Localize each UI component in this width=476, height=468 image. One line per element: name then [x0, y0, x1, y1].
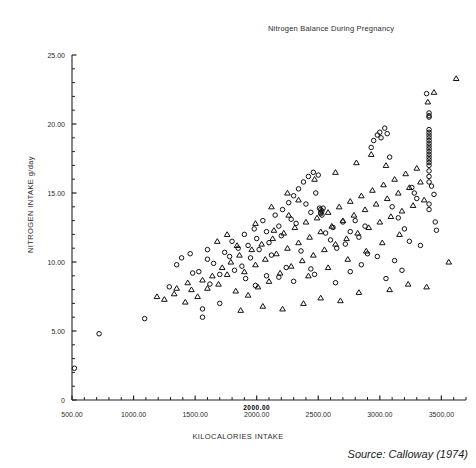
data-point-circle: [291, 194, 296, 199]
data-point-triangle: [318, 295, 324, 300]
y-tick-label: 10.00: [47, 259, 65, 266]
data-point-triangle: [195, 294, 201, 299]
data-point-circle: [328, 238, 333, 243]
tick-labels-group: 05.0010.0015.0020.0025.00500.001000.0015…: [47, 52, 454, 418]
data-point-triangle: [296, 197, 302, 202]
data-point-triangle: [381, 182, 387, 187]
data-point-circle: [412, 191, 417, 196]
data-point-triangle: [281, 230, 287, 235]
data-point-triangle: [306, 273, 312, 278]
data-point-triangle: [253, 221, 259, 226]
data-point-circle: [299, 249, 304, 254]
scatter-plot-canvas[interactable]: 05.0010.0015.0020.0025.00500.001000.0015…: [0, 0, 476, 468]
data-point-triangle: [266, 279, 272, 284]
data-point-circle: [261, 218, 266, 223]
data-point-circle: [200, 307, 205, 312]
data-point-circle: [375, 254, 380, 259]
data-point-triangle: [453, 76, 459, 81]
data-point-triangle: [410, 203, 416, 208]
data-point-circle: [296, 187, 301, 192]
data-point-triangle: [189, 287, 195, 292]
data-point-triangle: [388, 214, 394, 219]
y-tick-label: 0: [61, 397, 65, 404]
source-note: Source: Calloway (1974): [348, 448, 468, 460]
data-point-circle: [385, 131, 390, 136]
data-point-triangle: [399, 208, 405, 213]
data-point-triangle: [269, 204, 275, 209]
data-point-triangle: [418, 179, 424, 184]
data-point-circle: [264, 229, 269, 234]
series-circle-series: [72, 91, 438, 370]
data-point-triangle: [333, 241, 339, 246]
data-point-triangle: [238, 308, 244, 313]
data-point-triangle: [351, 212, 357, 217]
data-point-circle: [242, 232, 247, 237]
data-point-triangle: [356, 290, 362, 295]
data-point-circle: [384, 276, 389, 281]
data-point-triangle: [303, 219, 309, 224]
data-point-triangle: [174, 286, 180, 291]
data-point-triangle: [387, 287, 393, 292]
data-point-circle: [427, 174, 432, 179]
data-point-circle: [427, 207, 432, 212]
data-point-triangle: [233, 288, 239, 293]
data-point-circle: [429, 184, 434, 189]
data-point-circle: [286, 200, 291, 205]
data-point-triangle: [214, 239, 220, 244]
data-point-triangle: [262, 257, 268, 262]
data-point-circle: [289, 217, 294, 222]
data-point-triangle: [219, 265, 225, 270]
data-point-triangle: [228, 259, 234, 264]
data-point-triangle: [370, 188, 376, 193]
ticks-group: [72, 55, 466, 400]
data-point-triangle: [280, 306, 286, 311]
data-point-triangle: [336, 204, 342, 209]
data-point-circle: [407, 239, 412, 244]
data-point-triangle: [270, 236, 276, 241]
data-point-circle: [267, 240, 272, 245]
data-point-circle: [284, 265, 289, 270]
data-point-circle: [353, 218, 358, 223]
data-point-circle: [359, 263, 364, 268]
data-point-triangle: [285, 246, 291, 251]
data-points-group: [72, 76, 459, 371]
data-point-circle: [348, 269, 353, 274]
data-point-circle: [269, 253, 274, 258]
data-point-triangle: [288, 263, 294, 268]
data-point-triangle: [271, 228, 277, 233]
data-point-triangle: [397, 232, 403, 237]
data-point-triangle: [325, 210, 331, 215]
data-point-circle: [323, 231, 328, 236]
data-point-circle: [309, 267, 314, 272]
data-point-triangle: [322, 247, 328, 252]
data-point-circle: [427, 163, 432, 168]
data-point-triangle: [377, 219, 383, 224]
data-point-triangle: [340, 218, 346, 223]
data-point-triangle: [216, 281, 222, 286]
data-point-triangle: [424, 284, 430, 289]
data-point-triangle: [277, 270, 283, 275]
data-point-triangle: [307, 235, 313, 240]
data-point-circle: [387, 155, 392, 160]
x-tick-label: 2500.00: [306, 411, 331, 418]
data-point-circle: [179, 256, 184, 261]
y-tick-label: 5.00: [51, 328, 65, 335]
data-point-circle: [252, 227, 256, 232]
data-point-triangle: [431, 90, 437, 95]
data-point-circle: [432, 192, 437, 197]
data-point-circle: [390, 205, 395, 210]
data-point-triangle: [154, 294, 160, 299]
data-point-circle: [379, 136, 384, 141]
data-point-circle: [218, 272, 223, 277]
data-point-circle: [273, 213, 278, 218]
y-tick-label: 15.00: [47, 190, 65, 197]
data-point-triangle: [446, 259, 452, 264]
data-point-circle: [306, 174, 311, 179]
data-point-circle: [277, 275, 282, 280]
data-point-circle: [142, 316, 147, 321]
x-axis-label: KILOCALORIES INTAKE: [0, 432, 476, 441]
data-point-triangle: [242, 269, 248, 274]
data-point-triangle: [296, 240, 302, 245]
data-point-triangle: [200, 277, 206, 282]
data-point-circle: [257, 247, 262, 252]
